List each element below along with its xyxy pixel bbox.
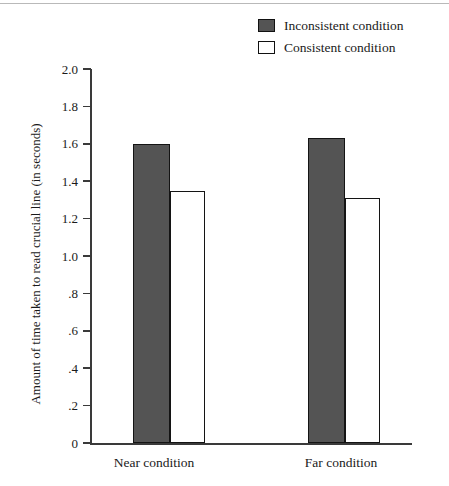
bar-chart-figure: Inconsistent condition Consistent condit… [0,0,449,486]
y-tick-label: 2.0 [42,63,78,76]
y-tick-mark [83,143,91,145]
y-tick-mark [83,330,91,332]
y-tick-label: .4 [42,362,78,375]
y-tick-label: .8 [42,287,78,300]
y-tick-mark [83,255,91,257]
bar-far-consistent [345,198,380,443]
y-tick-label: .2 [42,399,78,412]
y-tick-label: 1.8 [42,100,78,113]
y-tick-mark [83,106,91,108]
y-tick-label: 0 [42,437,78,450]
y-tick-mark [83,218,91,220]
x-axis-line [90,443,412,445]
y-tick-label: 1.6 [42,137,78,150]
y-tick-label: .6 [42,324,78,337]
y-tick-label: 1.4 [42,175,78,188]
bar-far-inconsistent [308,138,345,443]
y-tick-mark [83,367,91,369]
y-tick-mark [83,405,91,407]
legend-swatch-icon-inconsistent [258,19,275,32]
bar-near-consistent [170,191,205,443]
y-tick-label: 1.0 [42,250,78,263]
y-tick-label: 1.2 [42,212,78,225]
bar-near-inconsistent [133,144,170,443]
legend-label-inconsistent: Inconsistent condition [284,18,404,33]
y-tick-mark [83,180,91,182]
y-tick-mark [83,442,91,444]
legend-label-consistent: Consistent condition [284,40,395,55]
chart-legend: Inconsistent condition Consistent condit… [258,14,448,58]
group-label-far: Far condition [288,455,394,471]
legend-swatch-icon-consistent [258,41,275,54]
top-divider [0,3,449,4]
legend-item-inconsistent: Inconsistent condition [258,14,448,36]
legend-item-consistent: Consistent condition [258,36,448,58]
y-tick-mark [83,293,91,295]
group-label-near: Near condition [101,455,207,471]
y-tick-mark [83,68,91,70]
